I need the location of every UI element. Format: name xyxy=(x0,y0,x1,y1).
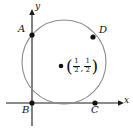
center-x-fraction: 1 2 xyxy=(73,58,79,74)
center-y-fraction: 1 2 xyxy=(84,58,90,74)
point-d-label: D xyxy=(99,25,107,35)
y-axis xyxy=(29,9,35,126)
open-paren: ( xyxy=(66,59,73,73)
y-axis-label: y xyxy=(35,2,40,11)
x-axis-label: x xyxy=(124,96,129,105)
coordinate-comma: , xyxy=(81,64,84,74)
circle-center-dot xyxy=(59,64,64,69)
point-a-dot xyxy=(29,32,34,37)
geometry-figure: A B C D x y ( 1 2 , 1 2 ) xyxy=(0,0,133,132)
circle-center-label: ( 1 2 , 1 2 ) xyxy=(66,58,98,74)
y-axis-arrowhead xyxy=(29,9,35,15)
center-y-denominator: 2 xyxy=(84,67,90,75)
point-a-label: A xyxy=(18,24,25,34)
close-paren: ) xyxy=(91,59,98,73)
point-d-dot xyxy=(90,34,95,39)
point-b-label: B xyxy=(22,105,29,115)
center-x-denominator: 2 xyxy=(73,67,79,75)
point-b-dot xyxy=(29,100,34,105)
point-c-label: C xyxy=(91,105,99,115)
